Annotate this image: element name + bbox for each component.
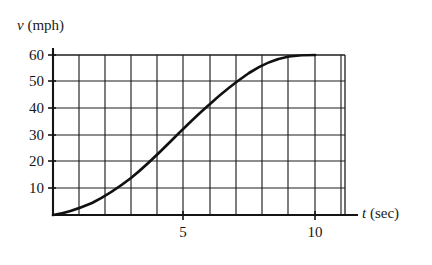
y-tick-label-10: 10 [14,181,44,196]
grid-lines [53,55,345,215]
x-axis-label: t (sec) [362,206,399,221]
y-axis-label: v (mph) [17,18,64,33]
x-axis-units: (sec) [370,205,399,221]
x-tick-label-10: 10 [300,225,330,240]
y-axis-variable: v [17,17,24,33]
y-tick-label-30: 30 [14,128,44,143]
y-axis-units: (mph) [27,17,64,33]
y-tick-label-60: 60 [14,48,44,63]
y-tick-label-20: 20 [14,154,44,169]
x-tick-label-5: 5 [168,225,198,240]
y-tick-label-50: 50 [14,74,44,89]
x-axis-variable: t [362,205,366,221]
y-tick-label-40: 40 [14,101,44,116]
plot-area [0,0,432,265]
velocity-time-figure: v (mph) t (sec) 60 50 40 30 20 10 5 10 [0,0,432,265]
